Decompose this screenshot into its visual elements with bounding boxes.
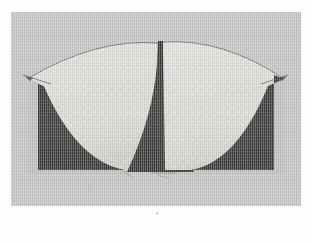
photograph (11, 12, 301, 206)
caption-mark: * (150, 211, 164, 225)
figure-page: * (0, 0, 312, 243)
geometric-figure (11, 12, 301, 206)
board-speck (88, 188, 90, 190)
